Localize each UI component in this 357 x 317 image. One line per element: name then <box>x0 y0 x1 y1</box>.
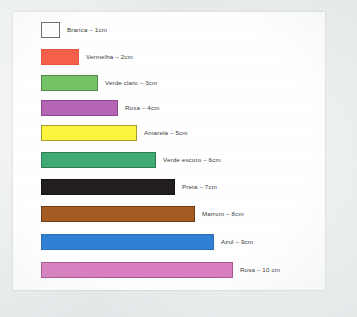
rod-bar-verde-escuro <box>41 152 156 168</box>
rod-label: Roxa – 4cm <box>125 105 160 111</box>
rod-bar-vermelha <box>41 49 79 65</box>
rod-bar-roxa <box>41 100 118 116</box>
rod-bar-marrom <box>41 206 195 222</box>
rod-label: Azul – 9cm <box>221 239 253 245</box>
rod-bar-amarela <box>41 125 137 141</box>
chart-card: Branca – 1cm Vermelha – 2cm Verde claro … <box>13 12 325 290</box>
rod-row: Marrom – 8cm <box>41 206 244 222</box>
rod-label: Rosa – 10 cm <box>240 267 280 273</box>
rod-bar-azul <box>41 234 214 250</box>
rod-row: Roxa – 4cm <box>41 100 160 116</box>
scanned-page-background: Branca – 1cm Vermelha – 2cm Verde claro … <box>0 0 357 317</box>
rod-bar-rosa <box>41 262 233 278</box>
rod-bar-verde-claro <box>41 75 98 91</box>
rod-label: Marrom – 8cm <box>202 211 244 217</box>
rod-row: Verde escuro – 6cm <box>41 152 221 168</box>
rod-label: Verde escuro – 6cm <box>163 157 221 163</box>
rod-label: Preta – 7cm <box>182 184 217 190</box>
rod-label: Vermelha – 2cm <box>86 54 133 60</box>
rod-row: Verde claro – 3cm <box>41 75 157 91</box>
rod-bar-branca <box>41 22 60 38</box>
rod-row: Vermelha – 2cm <box>41 49 133 65</box>
rod-label: Amarela – 5cm <box>144 130 188 136</box>
rod-row: Azul – 9cm <box>41 234 253 250</box>
rod-label: Branca – 1cm <box>67 27 107 33</box>
rod-label: Verde claro – 3cm <box>105 80 157 86</box>
rod-row: Branca – 1cm <box>41 22 107 38</box>
rod-bar-preta <box>41 179 175 195</box>
rod-row: Preta – 7cm <box>41 179 217 195</box>
rod-row: Amarela – 5cm <box>41 125 188 141</box>
rod-row: Rosa – 10 cm <box>41 262 280 278</box>
